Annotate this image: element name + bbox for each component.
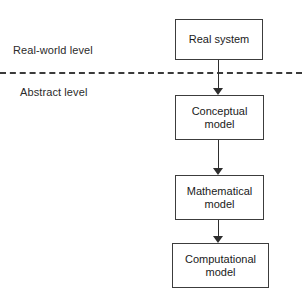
node-computational-model: Computational model <box>172 243 269 288</box>
node-mathematical-model-line2: model <box>205 198 235 210</box>
node-computational-model-label: Computational model <box>185 253 256 279</box>
arrow-shaft <box>218 140 219 168</box>
arrowhead-down-icon <box>213 88 223 95</box>
level-divider-dashed-line <box>0 72 302 74</box>
node-mathematical-model-line1: Mathematical <box>187 185 252 197</box>
node-conceptual-model-line2: model <box>205 118 235 130</box>
node-conceptual-model: Conceptual model <box>175 95 264 140</box>
arrow-shaft <box>218 60 219 88</box>
level-label-abstract: Abstract level <box>20 86 87 98</box>
node-conceptual-model-label: Conceptual model <box>192 105 248 131</box>
node-computational-model-line1: Computational <box>185 253 256 265</box>
arrowhead-down-icon <box>213 236 223 243</box>
node-real-system: Real system <box>175 19 263 60</box>
arrow-real-system-to-conceptual-model <box>213 60 224 95</box>
diagram-canvas: Real-world level Abstract level Real sys… <box>0 0 308 303</box>
arrowhead-down-icon <box>213 168 223 175</box>
node-mathematical-model-label: Mathematical model <box>187 185 252 211</box>
node-conceptual-model-line1: Conceptual <box>192 105 248 117</box>
node-mathematical-model: Mathematical model <box>175 175 264 220</box>
level-label-real-world: Real-world level <box>13 44 93 56</box>
arrow-shaft <box>218 220 219 236</box>
node-real-system-label: Real system <box>189 33 250 46</box>
arrow-mathematical-model-to-computational-model <box>213 220 224 243</box>
arrow-conceptual-model-to-mathematical-model <box>213 140 224 175</box>
node-computational-model-line2: model <box>206 266 236 278</box>
